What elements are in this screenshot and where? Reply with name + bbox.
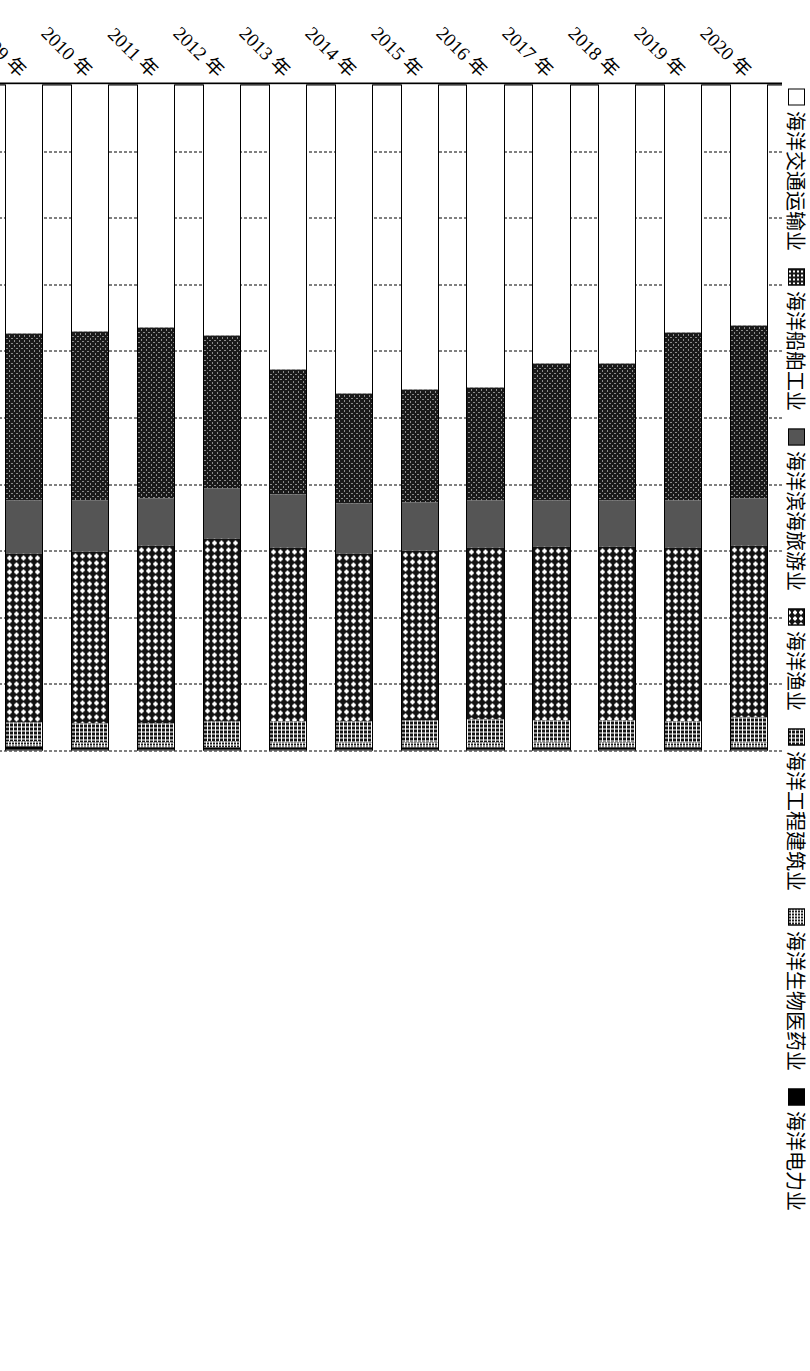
bar-segment[interactable] bbox=[731, 545, 767, 717]
bar-segment[interactable] bbox=[336, 747, 372, 749]
bar-segment[interactable] bbox=[6, 741, 42, 746]
stacked-bar[interactable] bbox=[269, 84, 307, 750]
bar-segment[interactable] bbox=[665, 332, 701, 500]
bar-segment[interactable] bbox=[6, 746, 42, 749]
bar-segment[interactable] bbox=[204, 538, 240, 721]
bar-segment[interactable] bbox=[72, 742, 108, 747]
bar-segment[interactable] bbox=[533, 500, 569, 547]
bar-segment[interactable] bbox=[467, 500, 503, 548]
bar-segment[interactable] bbox=[467, 747, 503, 749]
legend-item[interactable]: 海洋生物医药业 bbox=[783, 908, 810, 1070]
bar-segment[interactable] bbox=[72, 747, 108, 749]
bar-segment[interactable] bbox=[270, 747, 306, 749]
bar-segment[interactable] bbox=[533, 742, 569, 747]
bar-segment[interactable] bbox=[402, 742, 438, 747]
bar-segment[interactable] bbox=[270, 494, 306, 547]
bar-segment[interactable] bbox=[665, 547, 701, 721]
bar-segment[interactable] bbox=[204, 741, 240, 747]
legend-item[interactable]: 海洋渔业 bbox=[783, 608, 810, 710]
bar-segment[interactable] bbox=[731, 742, 767, 747]
bar-segment[interactable] bbox=[270, 721, 306, 742]
legend-item[interactable]: 海洋滨海旅游业 bbox=[783, 428, 810, 590]
legend-item[interactable]: 海洋工程建筑业 bbox=[783, 728, 810, 890]
bar-segment[interactable] bbox=[599, 742, 635, 747]
stacked-bar[interactable] bbox=[71, 84, 109, 750]
stacked-bar[interactable] bbox=[203, 84, 241, 750]
bar-segment[interactable] bbox=[599, 500, 635, 547]
stacked-bar[interactable] bbox=[730, 84, 768, 750]
legend-item[interactable]: 海洋交通运输业 bbox=[783, 88, 810, 250]
bar-segment[interactable] bbox=[402, 747, 438, 749]
bar-segment[interactable] bbox=[533, 546, 569, 720]
bar-segment[interactable] bbox=[204, 488, 240, 538]
bar-segment[interactable] bbox=[72, 551, 108, 723]
bar-segment[interactable] bbox=[270, 369, 306, 494]
bar-segment[interactable] bbox=[467, 547, 503, 719]
bar-segment[interactable] bbox=[204, 84, 240, 335]
bar-segment[interactable] bbox=[138, 545, 174, 723]
bar-segment[interactable] bbox=[599, 363, 635, 499]
bar-segment[interactable] bbox=[336, 503, 372, 553]
bar-segment[interactable] bbox=[270, 84, 306, 369]
bar-segment[interactable] bbox=[72, 84, 108, 331]
stacked-bar[interactable] bbox=[664, 84, 702, 750]
bar-segment[interactable] bbox=[665, 84, 701, 332]
bar-segment[interactable] bbox=[72, 500, 108, 552]
bar-segment[interactable] bbox=[665, 500, 701, 547]
bar-segment[interactable] bbox=[533, 720, 569, 742]
stacked-bar[interactable] bbox=[137, 84, 175, 750]
bar-segment[interactable] bbox=[336, 84, 372, 393]
stacked-bar[interactable] bbox=[335, 84, 373, 750]
bar-segment[interactable] bbox=[336, 553, 372, 721]
bar-segment[interactable] bbox=[138, 327, 174, 499]
bar-segment[interactable] bbox=[138, 498, 174, 545]
bar-segment[interactable] bbox=[72, 723, 108, 742]
bar-segment[interactable] bbox=[665, 742, 701, 747]
bar-segment[interactable] bbox=[402, 550, 438, 720]
bar-segment[interactable] bbox=[467, 719, 503, 742]
bar-segment[interactable] bbox=[599, 747, 635, 749]
bar-segment[interactable] bbox=[138, 742, 174, 747]
bar-segment[interactable] bbox=[6, 84, 42, 333]
bar-segment[interactable] bbox=[533, 747, 569, 749]
bar-segment[interactable] bbox=[336, 721, 372, 742]
bar-segment[interactable] bbox=[467, 84, 503, 387]
stacked-bar[interactable] bbox=[532, 84, 570, 750]
bar-segment[interactable] bbox=[731, 498, 767, 546]
bar-segment[interactable] bbox=[204, 335, 240, 488]
bar-segment[interactable] bbox=[336, 742, 372, 747]
bar-segment[interactable] bbox=[533, 363, 569, 499]
bar-segment[interactable] bbox=[138, 747, 174, 749]
bar-segment[interactable] bbox=[467, 742, 503, 747]
bar-segment[interactable] bbox=[402, 389, 438, 502]
bar-segment[interactable] bbox=[270, 742, 306, 747]
bar-segment[interactable] bbox=[270, 547, 306, 721]
bar-segment[interactable] bbox=[731, 84, 767, 325]
bar-segment[interactable] bbox=[72, 331, 108, 499]
legend-item[interactable]: 海洋电力业 bbox=[783, 1088, 810, 1210]
bar-segment[interactable] bbox=[731, 717, 767, 742]
stacked-bar[interactable] bbox=[466, 84, 504, 750]
bar-segment[interactable] bbox=[599, 720, 635, 742]
bar-segment[interactable] bbox=[599, 84, 635, 363]
bar-segment[interactable] bbox=[204, 721, 240, 741]
bar-segment[interactable] bbox=[6, 722, 42, 741]
bar-segment[interactable] bbox=[204, 747, 240, 749]
bar-segment[interactable] bbox=[6, 500, 42, 553]
stacked-bar[interactable] bbox=[401, 84, 439, 750]
bar-segment[interactable] bbox=[467, 387, 503, 500]
stacked-bar[interactable] bbox=[598, 84, 636, 750]
bar-segment[interactable] bbox=[138, 723, 174, 742]
bar-segment[interactable] bbox=[665, 721, 701, 742]
stacked-bar[interactable] bbox=[5, 84, 43, 750]
bar-segment[interactable] bbox=[336, 393, 372, 503]
bar-segment[interactable] bbox=[533, 84, 569, 363]
bar-segment[interactable] bbox=[731, 325, 767, 498]
bar-segment[interactable] bbox=[599, 546, 635, 720]
bar-segment[interactable] bbox=[665, 747, 701, 749]
bar-segment[interactable] bbox=[402, 84, 438, 389]
legend-item[interactable]: 海洋船舶工业 bbox=[783, 268, 810, 410]
bar-segment[interactable] bbox=[402, 502, 438, 551]
bar-segment[interactable] bbox=[402, 720, 438, 743]
bar-segment[interactable] bbox=[138, 84, 174, 327]
